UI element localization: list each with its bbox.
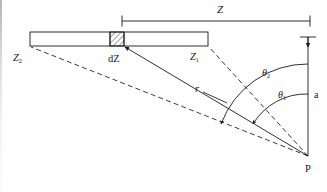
dimension-line-z (122, 16, 310, 27)
label-z-total: Z (217, 3, 224, 15)
label-r: r (195, 83, 200, 94)
figure-container: Z Z2 Z1 dZ a r (0, 0, 327, 192)
label-r-leader (203, 92, 227, 103)
label-point-p: P (305, 163, 311, 174)
ray-p-to-z2-dashed (31, 47, 308, 156)
line-source-geometry-diagram: Z Z2 Z1 dZ a r (0, 0, 327, 192)
element-dz-hatched (110, 32, 124, 46)
label-dz: dZ (108, 53, 120, 64)
label-z2: Z2 (13, 52, 22, 64)
source-bar (30, 32, 208, 46)
label-theta-2: θ2 (262, 67, 270, 79)
label-theta-1: θ1 (278, 89, 286, 101)
ray-r-to-dz (125, 47, 308, 156)
label-z1: Z1 (190, 51, 199, 63)
label-a: a (314, 89, 319, 100)
